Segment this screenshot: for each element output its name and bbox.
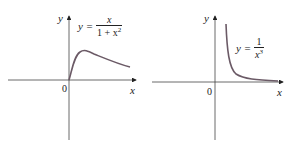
left-origin-label: 0	[62, 84, 67, 94]
left-eq-fraction: x 1 + x2	[96, 15, 122, 38]
left-eq-den: 1 + x	[97, 27, 118, 38]
right-x-label: x	[277, 87, 282, 98]
left-equation: y = x 1 + x2	[78, 15, 122, 38]
charts-canvas	[0, 0, 290, 153]
right-eq-fraction: 1 x3	[254, 37, 264, 60]
left-x-label: x	[130, 85, 135, 96]
right-eq-exp: 3	[260, 48, 264, 56]
left-eq-exp: 2	[118, 26, 122, 34]
left-y-label: y	[58, 13, 63, 24]
right-eq-lhs: y =	[236, 43, 251, 54]
right-chart-axes	[152, 16, 283, 140]
left-curve	[69, 51, 130, 80]
left-eq-num: x	[106, 15, 112, 25]
right-origin-label: 0	[207, 87, 212, 97]
left-eq-lhs: y =	[78, 21, 93, 32]
right-eq-num: 1	[256, 37, 263, 47]
right-y-label: y	[204, 13, 209, 24]
right-equation: y = 1 x3	[236, 37, 264, 60]
